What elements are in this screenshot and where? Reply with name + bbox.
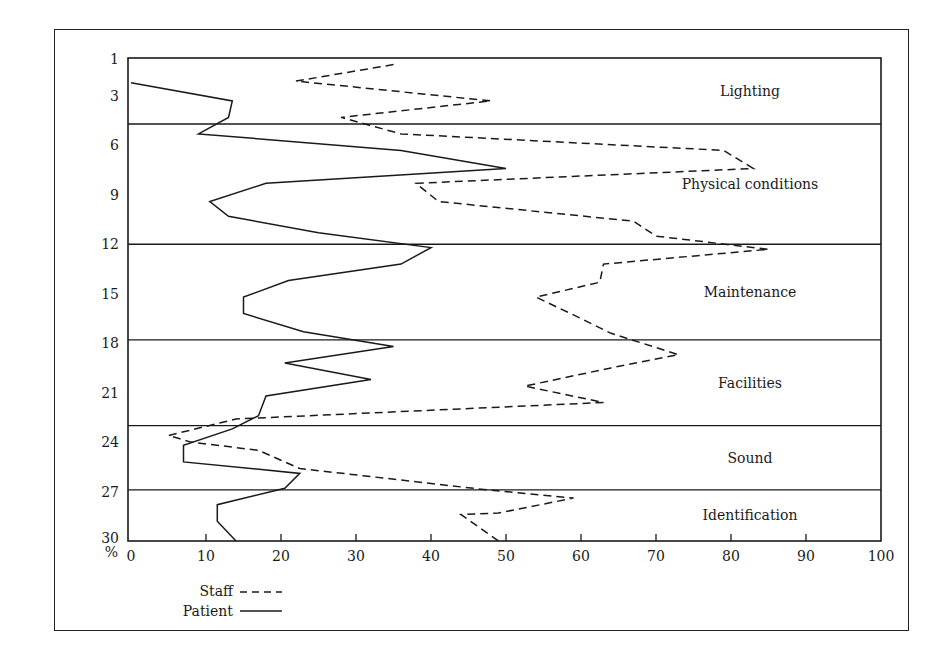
y-tick-label: 1 (110, 51, 119, 67)
x-axis-unit: % (105, 544, 118, 560)
y-tick-label: 9 (110, 187, 119, 203)
chart-canvas: LightingPhysical conditionsMaintenanceFa… (0, 0, 945, 664)
y-tick-label: 27 (101, 484, 119, 500)
x-axis: 0102030405060708090100 (127, 534, 895, 564)
y-tick-label: 18 (101, 335, 119, 351)
legend-label-staff: Staff (199, 583, 234, 599)
y-tick-label: 3 (110, 88, 119, 104)
x-tick-label: 60 (572, 548, 590, 564)
y-tick-label: 6 (110, 137, 119, 153)
x-tick-label: 50 (497, 548, 515, 564)
x-tick-label: 10 (197, 548, 215, 564)
legend: Staff Patient (183, 583, 282, 619)
series-line-patient (131, 83, 506, 541)
section-label-physical-conditions: Physical conditions (682, 176, 819, 192)
section-label-facilities: Facilities (718, 375, 782, 391)
x-tick-label: 100 (868, 548, 895, 564)
section-label-lighting: Lighting (720, 83, 780, 99)
y-axis: 136912151821242730 (101, 51, 119, 546)
x-tick-label: 90 (797, 548, 815, 564)
section-label-maintenance: Maintenance (704, 284, 797, 300)
y-tick-label: 21 (101, 385, 119, 401)
y-tick-label: 15 (101, 286, 119, 302)
x-tick-label: 0 (127, 548, 136, 564)
x-tick-label: 80 (722, 548, 740, 564)
section-label-sound: Sound (727, 450, 772, 466)
series-lines (131, 65, 769, 541)
x-tick-label: 30 (347, 548, 365, 564)
x-tick-label: 70 (647, 548, 665, 564)
y-tick-label: 12 (101, 236, 119, 252)
x-tick-label: 40 (422, 548, 440, 564)
y-tick-label: 24 (101, 434, 119, 450)
section-label-identification: Identification (703, 507, 798, 523)
legend-label-patient: Patient (183, 603, 234, 619)
x-tick-label: 20 (272, 548, 290, 564)
